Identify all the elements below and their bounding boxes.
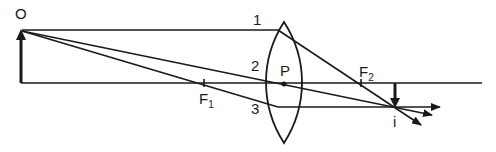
label-focus-2-sub: 2: [368, 72, 374, 83]
label-focus-2-main: F: [359, 63, 368, 80]
label-focus-1-main: F: [199, 90, 208, 107]
label-object: O: [15, 5, 27, 22]
label-ray-3: 3: [251, 100, 259, 117]
label-optical-center: P: [280, 62, 290, 79]
image-arrow: [390, 83, 400, 108]
optical-center-point: [282, 82, 287, 87]
label-image: i: [393, 113, 396, 130]
object-arrow: [16, 29, 26, 83]
ray-diagram: O 1 2 P 3 F1 F2 i: [0, 0, 496, 152]
label-ray-1: 1: [253, 11, 261, 28]
label-ray-2: 2: [251, 57, 259, 74]
label-focus-1-sub: 1: [208, 99, 214, 110]
label-focus-1: F1: [199, 90, 214, 110]
